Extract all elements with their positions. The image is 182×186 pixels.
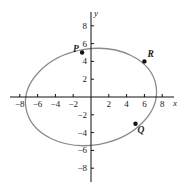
y-tick-label: 2 bbox=[83, 74, 88, 84]
x-tick-label: 2 bbox=[107, 99, 112, 109]
x-axis-label: x bbox=[172, 98, 177, 108]
y-tick-label: −4 bbox=[77, 128, 87, 138]
point-r bbox=[142, 59, 146, 63]
x-tick-label: −2 bbox=[68, 99, 78, 109]
y-tick-label: −2 bbox=[77, 110, 87, 120]
y-axis-label: y bbox=[93, 8, 98, 18]
point-label-q: Q bbox=[138, 125, 145, 135]
y-tick-label: 4 bbox=[83, 56, 88, 66]
point-label-p: P bbox=[73, 44, 79, 54]
coordinate-plane: −8−6−4−22468 8642−2−4−6−8 x y PRQ bbox=[0, 0, 182, 186]
x-tick-label: 8 bbox=[160, 99, 165, 109]
x-tick-label: −6 bbox=[33, 99, 43, 109]
y-tick-label: 8 bbox=[83, 21, 88, 31]
x-tick-label: 4 bbox=[124, 99, 129, 109]
x-tick-label: −4 bbox=[51, 99, 61, 109]
point-p bbox=[80, 50, 84, 54]
x-tick-group: −8−6−4−22468 bbox=[15, 94, 165, 109]
point-label-r: R bbox=[146, 49, 153, 59]
x-tick-label: 6 bbox=[142, 99, 147, 109]
y-tick-label: 6 bbox=[83, 39, 88, 49]
y-tick-label: −6 bbox=[77, 145, 87, 155]
y-tick-label: −8 bbox=[77, 163, 87, 173]
x-tick-label: −8 bbox=[15, 99, 25, 109]
